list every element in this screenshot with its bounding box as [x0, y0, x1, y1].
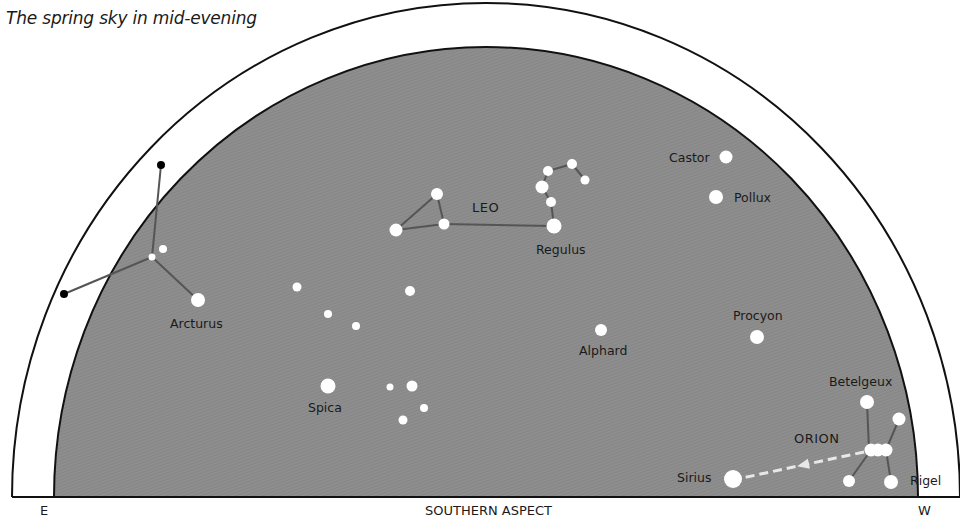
star: [709, 190, 723, 204]
star-label-arcturus: Arcturus: [170, 316, 223, 331]
southern-aspect-label: SOUTHERN ASPECT: [425, 503, 552, 518]
star-label-spica: Spica: [308, 400, 342, 415]
star: [324, 310, 332, 318]
east-label: E: [40, 503, 48, 518]
star: [352, 322, 360, 330]
star: [293, 283, 302, 292]
star: [843, 475, 855, 487]
star: [149, 254, 156, 261]
star: [390, 224, 403, 237]
star-label-sirius: Sirius: [677, 470, 711, 485]
star-below-horizon: [157, 161, 165, 169]
star: [405, 286, 415, 296]
star: [884, 475, 898, 489]
star: [860, 395, 874, 409]
star: [536, 181, 549, 194]
star-label-betelgeux: Betelgeux: [829, 374, 892, 389]
star: [431, 188, 443, 200]
star: [567, 159, 577, 169]
star: [407, 381, 418, 392]
west-label: W: [918, 503, 931, 518]
star-label-pollux: Pollux: [734, 190, 771, 205]
star: [547, 219, 562, 234]
star-label-rigel: Rigel: [910, 473, 941, 488]
star: [191, 293, 205, 307]
star: [420, 404, 428, 412]
star: [399, 416, 408, 425]
constellation-label-orion: ORION: [794, 431, 840, 446]
star: [750, 330, 764, 344]
star: [595, 324, 607, 336]
star: [543, 166, 553, 176]
star: [893, 413, 906, 426]
star: [720, 151, 733, 164]
star-label-castor: Castor: [669, 150, 710, 165]
star: [387, 384, 394, 391]
constellation-label-leo: LEO: [472, 200, 499, 215]
star: [159, 245, 167, 253]
star-below-horizon: [60, 290, 68, 298]
star: [581, 176, 590, 185]
star: [724, 470, 742, 488]
star: [439, 219, 450, 230]
star-label-alphard: Alphard: [579, 343, 627, 358]
star: [546, 197, 556, 207]
star-label-regulus: Regulus: [536, 242, 586, 257]
sky-chart: ArcturusRegulusCastorPolluxProcyonAlphar…: [0, 0, 960, 519]
star: [321, 379, 336, 394]
star: [880, 444, 893, 457]
star-label-procyon: Procyon: [733, 308, 783, 323]
